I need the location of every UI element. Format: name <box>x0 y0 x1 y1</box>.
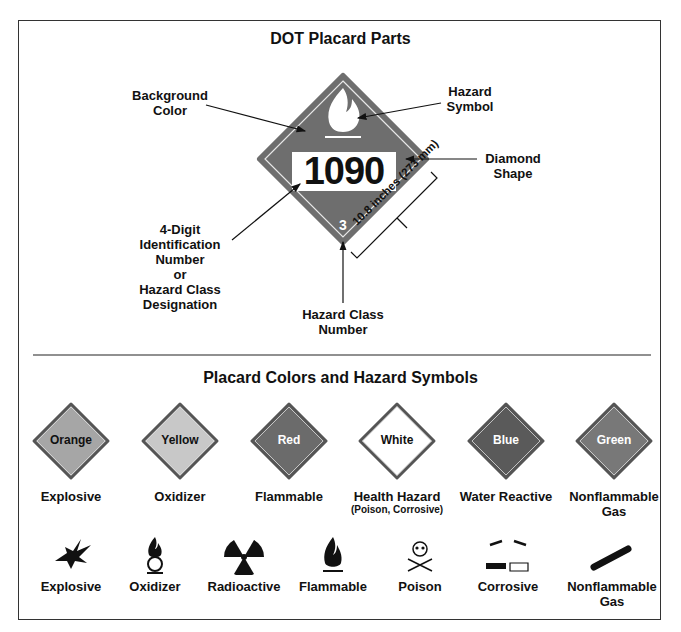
placard-meaning-yellow: Oxidizer <box>120 489 240 504</box>
colors-title: Placard Colors and Hazard Symbols <box>0 369 681 387</box>
color-placard-green: Green <box>574 401 654 481</box>
placard-meaning-blue: Water Reactive <box>446 489 566 504</box>
color-placard-yellow: Yellow <box>140 401 220 481</box>
symbol-label-corrosive: Corrosive <box>453 579 563 594</box>
callout-diamond-shape: DiamondShape <box>478 151 548 181</box>
placard-meaning-orange: Explosive <box>11 489 131 504</box>
placard-color-label: Yellow <box>140 433 220 447</box>
placard-color-label: White <box>357 433 437 447</box>
color-placard-blue: Blue <box>466 401 546 481</box>
placard-meaning-white: Health Hazard(Poison, Corrosive) <box>337 489 457 516</box>
placard-meaning-red: Flammable <box>229 489 349 504</box>
flame-over-circle-icon <box>131 535 179 575</box>
color-placard-red: Red <box>249 401 329 481</box>
symbol-label-nonflammable: NonflammableGas <box>557 579 667 609</box>
skull-crossbones-icon <box>396 535 444 575</box>
placard-color-label: Orange <box>31 433 111 447</box>
corrosion-icon <box>484 535 532 575</box>
placard-color-label: Green <box>574 433 654 447</box>
gas-cylinder-icon <box>588 535 636 575</box>
explosion-icon <box>47 535 95 575</box>
callout-id-number: 4-DigitIdentificationNumberorHazard Clas… <box>135 222 225 312</box>
id-number: 1090 <box>292 150 396 192</box>
placard-color-label: Red <box>249 433 329 447</box>
placard-meaning-green: NonflammableGas <box>554 489 674 519</box>
color-placard-orange: Orange <box>31 401 111 481</box>
flame-icon <box>309 535 357 575</box>
callout-hazard-symbol: HazardSymbol <box>440 84 500 114</box>
callout-class-number: Hazard ClassNumber <box>290 307 396 337</box>
color-placard-white: White <box>357 401 437 481</box>
callout-background-color: BackgroundColor <box>125 88 215 118</box>
trefoil-icon <box>220 535 268 575</box>
placard-color-label: Blue <box>466 433 546 447</box>
